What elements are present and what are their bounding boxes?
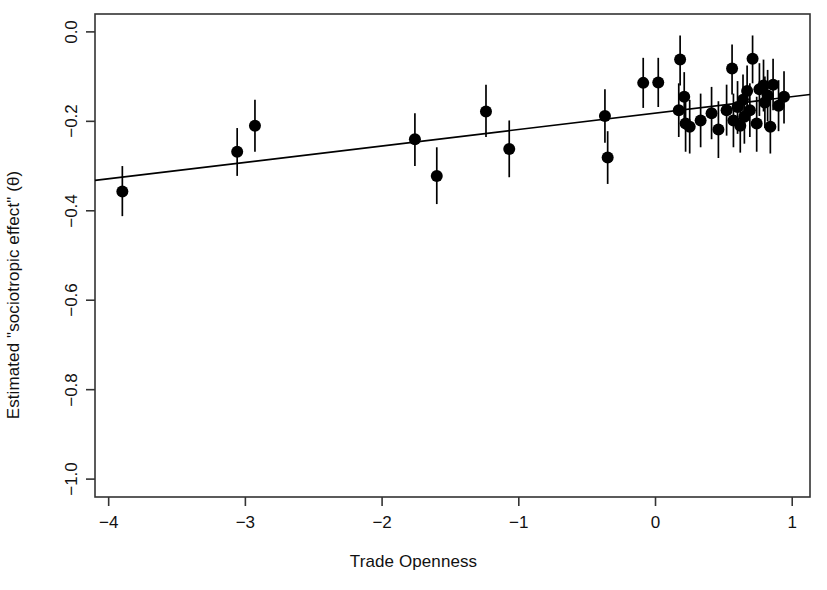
data-point xyxy=(231,146,243,158)
data-point xyxy=(762,89,774,101)
data-point xyxy=(684,121,696,133)
data-point xyxy=(747,53,759,65)
plot-canvas xyxy=(0,0,827,590)
data-point xyxy=(751,118,763,130)
y-tick-label: −0.6 xyxy=(61,270,83,330)
x-tick-label: −2 xyxy=(352,513,412,533)
x-tick-label: −3 xyxy=(215,513,275,533)
x-tick-label: 0 xyxy=(626,513,686,533)
data-point xyxy=(480,105,492,117)
regression-line xyxy=(95,95,810,181)
y-tick-label: 0.0 xyxy=(61,2,83,62)
data-point xyxy=(721,104,733,116)
data-point xyxy=(678,91,690,103)
data-point xyxy=(637,77,649,89)
data-point xyxy=(764,121,776,133)
data-point xyxy=(652,76,664,88)
x-axis-ticks xyxy=(109,497,793,506)
x-tick-label: −4 xyxy=(79,513,139,533)
data-point xyxy=(741,85,753,97)
data-point xyxy=(673,104,685,116)
data-point xyxy=(599,110,611,122)
data-point xyxy=(778,91,790,103)
y-tick-label: −0.8 xyxy=(61,360,83,420)
data-point xyxy=(744,104,756,116)
data-point xyxy=(431,170,443,182)
data-point xyxy=(116,186,128,198)
fit-line xyxy=(95,95,810,181)
data-point xyxy=(695,114,707,126)
x-tick-label: 1 xyxy=(762,513,822,533)
data-point xyxy=(674,54,686,66)
data-point xyxy=(726,63,738,75)
data-point xyxy=(249,120,261,132)
data-point xyxy=(602,152,614,164)
x-tick-label: −1 xyxy=(489,513,549,533)
data-point xyxy=(503,143,515,155)
y-tick-label: −0.4 xyxy=(61,181,83,241)
data-point xyxy=(712,123,724,135)
data-point xyxy=(767,79,779,91)
plot-frame xyxy=(95,14,810,497)
plot-border xyxy=(95,14,810,497)
y-tick-label: −1.0 xyxy=(61,449,83,509)
data-point xyxy=(409,133,421,145)
data-points xyxy=(116,53,790,198)
scatter-plot-figure: Estimated "sociotropic effect" (θ) Trade… xyxy=(0,0,827,590)
y-axis-ticks xyxy=(86,32,95,479)
y-tick-label: −0.2 xyxy=(61,91,83,151)
data-point xyxy=(706,107,718,119)
